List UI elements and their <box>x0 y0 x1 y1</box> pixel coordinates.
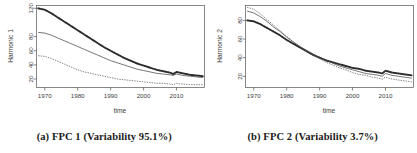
data-curve <box>247 20 412 75</box>
y-tick-label: 20 <box>235 72 242 79</box>
x-axis-title: time <box>322 107 335 114</box>
data-curve <box>247 11 412 78</box>
x-tick-label: 1970 <box>38 92 52 99</box>
y-ticks: 20406080 <box>235 16 245 79</box>
panel-a-caption: (a) FPC 1 (Variability 95.1%) <box>0 131 209 142</box>
x-ticks: 19701980199020002010 <box>246 88 392 99</box>
x-tick-label: 2010 <box>170 92 184 99</box>
y-axis-title: Harmonic 2 <box>216 29 223 63</box>
figure-root: 20406080120 19701980199020002010 Harmoni… <box>0 0 417 153</box>
x-tick-label: 2010 <box>378 92 392 99</box>
panel-a-curves <box>38 8 203 84</box>
x-tick-label: 1990 <box>312 92 326 99</box>
panel-a-axes: 20406080120 19701980199020002010 <box>27 3 205 99</box>
panel-a-plot: 20406080120 19701980199020002010 Harmoni… <box>0 0 209 128</box>
y-axis-title: Harmonic 1 <box>7 29 14 63</box>
panel-b-plot: 20406080 19701980199020002010 Harmonic 2… <box>209 0 417 128</box>
x-ticks: 19701980199020002010 <box>38 88 184 99</box>
plot-frame <box>37 6 205 88</box>
y-tick-label: 60 <box>235 35 242 42</box>
data-curve <box>38 56 203 85</box>
panel-b: 20406080 19701980199020002010 Harmonic 2… <box>209 0 417 153</box>
data-curve <box>38 8 203 76</box>
panel-a: 20406080120 19701980199020002010 Harmoni… <box>0 0 209 153</box>
y-tick-label: 80 <box>235 16 242 23</box>
y-tick-label: 60 <box>27 47 34 54</box>
x-tick-label: 2000 <box>137 92 151 99</box>
y-tick-label: 40 <box>235 54 242 61</box>
x-tick-label: 2000 <box>345 92 359 99</box>
panel-b-curves <box>247 7 412 82</box>
y-tick-label: 20 <box>27 75 34 82</box>
x-tick-label: 1990 <box>104 92 118 99</box>
panel-b-caption: (b) FPC 2 (Variability 3.7%) <box>209 131 417 142</box>
x-axis-title: time <box>114 107 127 114</box>
x-tick-label: 1970 <box>246 92 260 99</box>
x-tick-label: 1980 <box>71 92 85 99</box>
y-ticks: 20406080120 <box>27 3 37 83</box>
y-tick-label: 40 <box>27 61 34 68</box>
y-tick-label: 120 <box>27 3 34 14</box>
plot-frame <box>245 6 413 88</box>
panel-b-svg: 20406080 19701980199020002010 Harmonic 2… <box>209 0 417 128</box>
y-tick-label: 80 <box>27 33 34 40</box>
x-tick-label: 1980 <box>279 92 293 99</box>
panel-a-svg: 20406080120 19701980199020002010 Harmoni… <box>0 0 209 128</box>
panel-b-axes: 20406080 19701980199020002010 <box>235 6 413 99</box>
